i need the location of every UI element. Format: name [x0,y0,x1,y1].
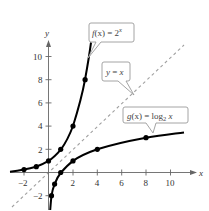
callout-identity: y = x [102,62,134,95]
x-axis-label: x [198,168,203,178]
x-tick-label: −2 [18,178,28,188]
x-tick-label: 4 [95,178,100,188]
x-tick-label: 2 [71,178,76,188]
callout-exponential-text: f(x) = 2x [92,26,122,38]
x-tick-label: 8 [144,178,149,188]
y-tick-label: 2 [38,145,43,155]
callout-identity-text: y = x [105,67,124,77]
y-axis-arrow-icon [46,40,51,47]
callout-logarithmic-text: g(x) = log2 x [127,111,173,123]
y-tick-label: −2 [33,191,43,201]
logarithmic-curve [50,132,184,210]
callout-exponential: f(x) = 2x [88,23,134,58]
function-graph: x y −2 2 4 6 8 10 −2 2 4 6 8 10 [0,0,209,211]
x-tick-label: 6 [119,178,124,188]
x-tick-label: 10 [166,178,176,188]
y-tick-label: 4 [38,121,43,131]
callout-logarithmic: g(x) = log2 x [123,107,188,133]
y-tick-label: 10 [33,52,43,62]
x-axis-arrow-icon [190,170,197,175]
exponential-curve [10,43,91,172]
y-tick-label: 6 [38,98,43,108]
y-tick-label: 8 [38,75,43,85]
y-axis-label: y [44,28,49,38]
